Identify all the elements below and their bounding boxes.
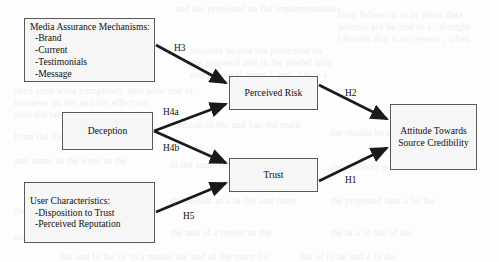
edge-label-h5: H5 [183,211,194,221]
node-attitude-towards-source-credibility: Attitude TowardsSource Credibility [390,104,477,170]
node-user-characteristics: User Characteristics:-Disposition to Tru… [24,182,155,243]
node-label-line: Deception [88,125,127,137]
node-label-line: Source Credibility [398,137,469,149]
node-perceived-risk: Perceived Risk [229,76,318,110]
node-label-line: -Brand [30,32,62,44]
node-label-line: -Message [30,68,72,80]
node-label-line: Perceived Risk [245,87,303,99]
arrow-h5 [156,183,226,212]
edge-label-h4a: H4a [163,107,179,117]
node-deception: Deception [62,112,153,150]
edge-label-h1: H1 [345,175,356,185]
edge-label-h3: H3 [174,43,185,53]
node-label-line: Attitude Towards [400,125,467,137]
node-trust: Trust [229,158,318,192]
node-media-assurance-mechanisms: Media Assurance Mechanisms:-Brand-Curren… [24,18,155,82]
node-label-line: -Testimonials [30,56,87,68]
node-label-line: -Current [30,44,68,56]
node-label-line: -Disposition to Trust [30,207,114,219]
edge-label-h2: H2 [345,88,356,98]
edge-label-h4b: H4b [163,143,179,153]
node-label-line: -Perceived Reputation [30,218,121,230]
node-label-line: Media Assurance Mechanisms: [30,21,150,33]
node-label-line: Trust [264,169,284,181]
arrow-h3 [156,45,226,83]
node-label-line: User Characteristics: [30,195,110,207]
research-model-diagram: and the proposed on the implementationfi… [0,0,499,262]
